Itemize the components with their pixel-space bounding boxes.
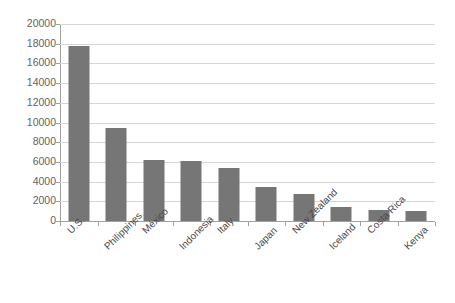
y-axis-tick-label: 18000 [0,38,56,49]
y-axis-tick-label: 6000 [0,156,56,167]
bar[interactable] [331,207,352,221]
bar[interactable] [406,211,427,221]
y-axis-tick-label: 2000 [0,195,56,206]
bar-chart: 0200040006000800010000120001400016000180… [0,0,455,303]
bar-slot [210,24,248,221]
y-axis-tick-label: 16000 [0,57,56,68]
y-axis-tick-label: 4000 [0,176,56,187]
x-axis-category-labels: U.S.PhilippinesMéxicoIndonesiaItalyJapan… [60,226,455,303]
bar-slot [173,24,211,221]
y-axis-tick-label: 14000 [0,77,56,88]
bar[interactable] [256,187,277,221]
bar[interactable] [218,168,239,221]
bar-slot [248,24,286,221]
y-axis-tick-label: 10000 [0,117,56,128]
bar-slot [285,24,323,221]
y-axis-tick-label: 8000 [0,136,56,147]
bar-slot [398,24,436,221]
bar-slot [360,24,398,221]
bar-slot [60,24,98,221]
y-axis-tick-label: 12000 [0,97,56,108]
bar[interactable] [181,161,202,221]
x-axis-category-label: Iceland [327,221,358,252]
bar-slot [135,24,173,221]
y-axis-tick-labels: 0200040006000800010000120001400016000180… [0,0,56,303]
plot-area [60,24,435,221]
x-axis-category-label: Kenya [402,224,430,252]
x-axis-category-label: Japan [252,225,279,252]
y-axis-tick-label: 20000 [0,18,56,29]
bar[interactable] [106,128,127,221]
bar-slot [98,24,136,221]
bar[interactable] [68,46,89,221]
y-axis-tick-label: 0 [0,215,56,226]
